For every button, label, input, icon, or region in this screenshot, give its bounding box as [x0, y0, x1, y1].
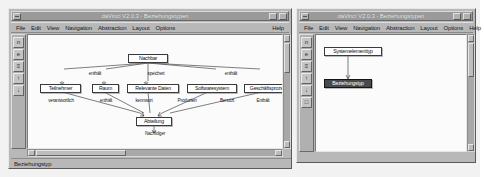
- second-window[interactable]: daVinci V2.0.3 - Beziehungstypen File Ed…: [296, 8, 476, 163]
- maximize-button[interactable]: [463, 13, 471, 20]
- second-toolbar[interactable]: n e ≡ ↑ ↓ □: [299, 34, 314, 152]
- zoom-in-icon[interactable]: ↑: [13, 73, 24, 84]
- menu-help[interactable]: Help: [466, 24, 484, 32]
- main-graph-canvas[interactable]: Nachbar Teilnehmer Raum Relevante Daten …: [27, 34, 283, 149]
- menu-edit[interactable]: Edit: [316, 24, 332, 32]
- menu-options[interactable]: Options: [152, 24, 178, 32]
- second-menubar[interactable]: File Edit View Navigation Abstraction La…: [299, 22, 473, 33]
- edge-label: speichert: [138, 71, 174, 77]
- minimize-button[interactable]: [453, 13, 461, 20]
- graph-node[interactable]: Nachbar: [128, 54, 168, 63]
- new-icon[interactable]: n: [13, 37, 24, 48]
- menu-layout[interactable]: Layout: [129, 24, 152, 32]
- menu-navigation[interactable]: Navigation: [62, 24, 95, 32]
- menu-file[interactable]: File: [301, 24, 316, 32]
- vertical-scroll-thumb[interactable]: [284, 43, 290, 73]
- open-icon[interactable]: e: [301, 49, 312, 60]
- main-vertical-scrollbar[interactable]: [283, 34, 291, 149]
- menu-abstraction[interactable]: Abstraction: [383, 24, 417, 32]
- open-icon[interactable]: e: [13, 49, 24, 60]
- graph-node[interactable]: Systemelementtyp: [324, 47, 382, 56]
- second-graph-canvas[interactable]: Systemelementtyp Beziehungstyp: [315, 34, 467, 152]
- second-window-title: daVinci V2.0.3 - Beziehungstypen: [310, 12, 452, 20]
- vertical-scroll-thumb[interactable]: [468, 43, 474, 77]
- scroll-up-arrow[interactable]: [468, 35, 474, 42]
- edge-label: Nachfolger: [132, 131, 178, 137]
- second-window-titlebar[interactable]: daVinci V2.0.3 - Beziehungstypen: [299, 11, 473, 21]
- main-toolbar[interactable]: n e ≡ ↑ ↓: [11, 34, 26, 149]
- zoom-in-icon[interactable]: ↑: [301, 73, 312, 84]
- status-text: Beziehungstyp: [14, 160, 51, 168]
- graph-node[interactable]: Abteilung: [136, 117, 172, 126]
- menu-view[interactable]: View: [44, 24, 62, 32]
- menu-view[interactable]: View: [332, 24, 350, 32]
- edge-label: Enthält: [246, 98, 280, 104]
- scroll-up-arrow[interactable]: [284, 35, 290, 42]
- main-menubar[interactable]: File Edit View Navigation Abstraction La…: [11, 22, 289, 33]
- new-icon[interactable]: n: [301, 37, 312, 48]
- scroll-down-arrow[interactable]: [284, 141, 290, 148]
- menu-options[interactable]: Options: [440, 24, 466, 32]
- edge-label: Produziert: [166, 98, 208, 104]
- graph-node[interactable]: Teilnehmer: [40, 84, 81, 93]
- fit-icon[interactable]: □: [301, 97, 312, 108]
- second-graph: Systemelementtyp Beziehungstyp: [316, 35, 466, 151]
- graph-node[interactable]: Raum: [92, 84, 119, 93]
- edge-label: enthält: [214, 71, 248, 77]
- print-icon[interactable]: ≡: [13, 61, 24, 72]
- edge-label: enthält: [90, 98, 122, 104]
- graph-node[interactable]: Geschäftsprozess: [244, 84, 283, 93]
- print-icon[interactable]: ≡: [301, 61, 312, 72]
- main-horizontal-scrollbar[interactable]: [27, 149, 283, 157]
- main-statusbar: Beziehungstyp: [11, 158, 291, 168]
- graph-node-selected[interactable]: Beziehungstyp: [324, 79, 372, 88]
- menu-abstraction[interactable]: Abstraction: [95, 24, 129, 32]
- minimize-button[interactable]: [269, 13, 277, 20]
- main-window[interactable]: daVinci V2.0.3 - Beziehungstypen File Ed…: [8, 8, 292, 169]
- menu-navigation[interactable]: Navigation: [350, 24, 383, 32]
- window-menu-button[interactable]: [301, 13, 309, 20]
- menu-layout[interactable]: Layout: [417, 24, 440, 32]
- edge-label: kennwort: [124, 98, 164, 104]
- main-window-titlebar[interactable]: daVinci V2.0.3 - Beziehungstypen: [11, 11, 289, 21]
- edge-label: Benutzt: [210, 98, 244, 104]
- graph-node[interactable]: Relevante Daten: [127, 84, 179, 93]
- horizontal-scroll-thumb[interactable]: [36, 150, 126, 156]
- zoom-out-icon[interactable]: ↓: [13, 85, 24, 96]
- zoom-out-icon[interactable]: ↓: [301, 85, 312, 96]
- maximize-button[interactable]: [279, 13, 287, 20]
- menu-file[interactable]: File: [13, 24, 28, 32]
- scroll-left-arrow[interactable]: [28, 150, 35, 156]
- menu-edit[interactable]: Edit: [28, 24, 44, 32]
- edge-label: verantwortlich: [36, 98, 86, 104]
- scroll-down-arrow[interactable]: [468, 144, 474, 151]
- second-vertical-scrollbar[interactable]: [467, 34, 475, 152]
- window-menu-button[interactable]: [13, 13, 21, 20]
- main-graph: Nachbar Teilnehmer Raum Relevante Daten …: [28, 35, 282, 148]
- edge-label: enthält: [78, 71, 112, 77]
- menu-help[interactable]: Help: [269, 24, 287, 32]
- graph-node[interactable]: Softwaresystem: [187, 84, 237, 93]
- scroll-right-arrow[interactable]: [275, 150, 282, 156]
- main-window-title: daVinci V2.0.3 - Beziehungstypen: [22, 12, 268, 20]
